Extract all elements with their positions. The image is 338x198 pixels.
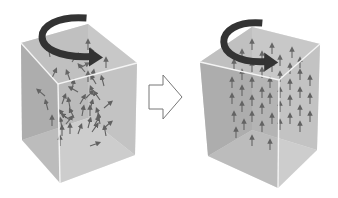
- transition-arrow-icon: [149, 75, 182, 119]
- box-random-orientation: [21, 18, 137, 183]
- box-aligned-orientation: [200, 23, 320, 188]
- hollow-right-arrow-icon: [149, 75, 182, 119]
- spin-alignment-diagram: [0, 0, 338, 198]
- front-left-face: [200, 62, 279, 188]
- diagram-stage: [0, 0, 338, 198]
